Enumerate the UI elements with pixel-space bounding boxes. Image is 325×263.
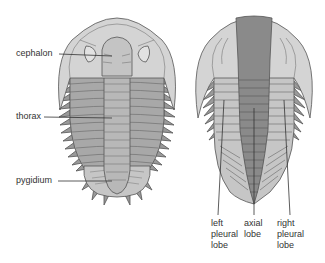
label-line: pleural — [211, 229, 238, 240]
label-left-pleural-lobe: left pleural lobe — [211, 218, 238, 251]
label-line: lobe — [211, 240, 238, 251]
glabella — [102, 37, 132, 76]
label-pygidium: pygidium — [16, 175, 52, 186]
label-axial-lobe: axial lobe — [244, 218, 263, 240]
label-line: left — [211, 218, 238, 229]
label-line: pleural — [277, 229, 304, 240]
label-right-pleural-lobe: right pleural lobe — [277, 218, 304, 251]
label-thorax: thorax — [16, 111, 41, 122]
label-cephalon: cephalon — [16, 48, 53, 59]
label-line: axial — [244, 218, 263, 229]
label-line: lobe — [244, 229, 263, 240]
label-line: right — [277, 218, 304, 229]
left-trilobite — [59, 18, 176, 205]
label-line: lobe — [277, 240, 304, 251]
